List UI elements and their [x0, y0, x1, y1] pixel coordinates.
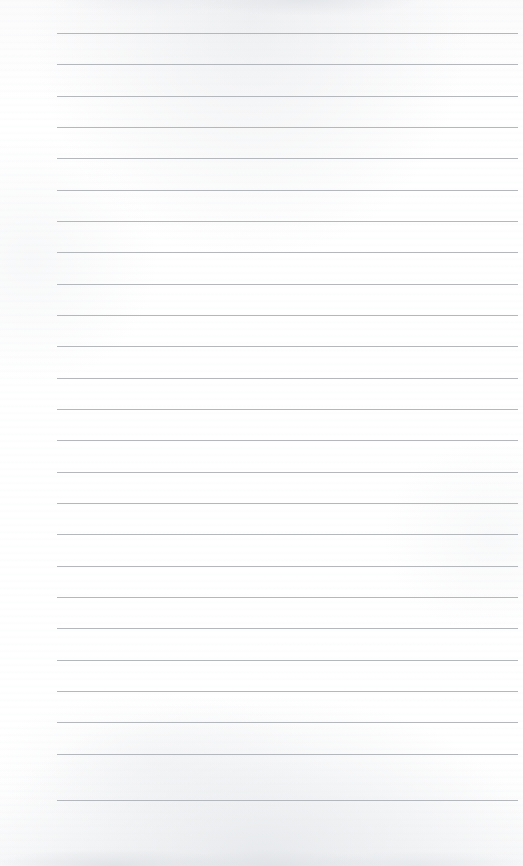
rule-line — [57, 158, 518, 159]
rule-line — [57, 252, 518, 253]
rule-line — [57, 440, 518, 441]
rule-line — [57, 284, 518, 285]
rule-line — [57, 597, 518, 598]
rule-line — [57, 409, 518, 410]
rule-line — [57, 221, 518, 222]
rule-line — [57, 190, 518, 191]
rule-line — [57, 800, 518, 801]
rule-line — [57, 691, 518, 692]
rule-line — [57, 503, 518, 504]
rule-line — [57, 346, 518, 347]
notepad-page — [0, 0, 523, 866]
ruled-lines-group — [0, 0, 523, 866]
rule-line — [57, 660, 518, 661]
rule-line — [57, 754, 518, 755]
rule-line — [57, 472, 518, 473]
rule-line — [57, 722, 518, 723]
rule-line — [57, 33, 518, 34]
rule-line — [57, 566, 518, 567]
rule-line — [57, 64, 518, 65]
rule-line — [57, 96, 518, 97]
rule-line — [57, 534, 518, 535]
rule-line — [57, 378, 518, 379]
rule-line — [57, 127, 518, 128]
rule-line — [57, 628, 518, 629]
rule-line — [57, 315, 518, 316]
